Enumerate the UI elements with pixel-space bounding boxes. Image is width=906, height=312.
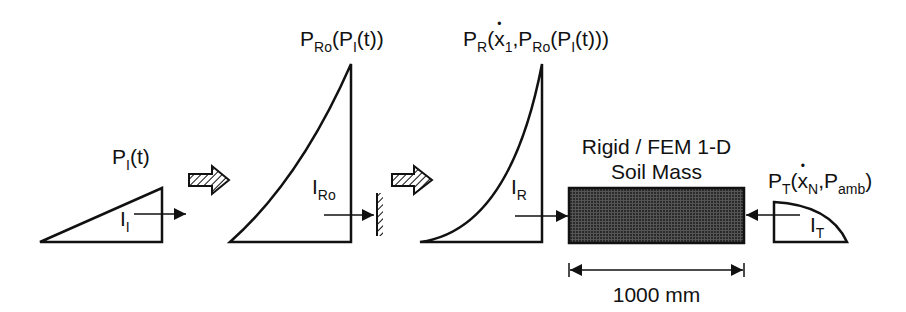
reflected-pulse [420, 64, 568, 242]
incident-pressure-label: PI(t) [112, 146, 150, 172]
reflected-pressure-label: PR(x1,PRo(PI(t))) [463, 28, 609, 54]
incident-pulse [40, 188, 186, 242]
reflected-rigid-pressure-label: PRo(PI(t)) [300, 28, 384, 54]
hatched-arrow-1 [189, 166, 229, 194]
reflected-rigid-impulse-label: IRo [312, 176, 336, 202]
hatched-arrow-2 [392, 166, 432, 194]
soil-mass-block [569, 188, 744, 243]
soil-mass-title-line2: Soil Mass [569, 161, 744, 182]
transmitted-impulse-label: IT [810, 214, 824, 240]
dimension-line [569, 263, 744, 277]
reflected-impulse-label: IR [511, 176, 527, 202]
soil-mass-title-line1: Rigid / FEM 1-D [569, 136, 744, 157]
incident-impulse-label: II [120, 208, 130, 234]
reflected-rigid-pulse [230, 64, 383, 242]
transmitted-pulse [746, 202, 847, 242]
transmitted-pressure-label: PT(xN,Pamb) [768, 170, 872, 196]
dimension-label: 1000 mm [569, 284, 744, 305]
rigid-wall-icon [377, 193, 383, 236]
